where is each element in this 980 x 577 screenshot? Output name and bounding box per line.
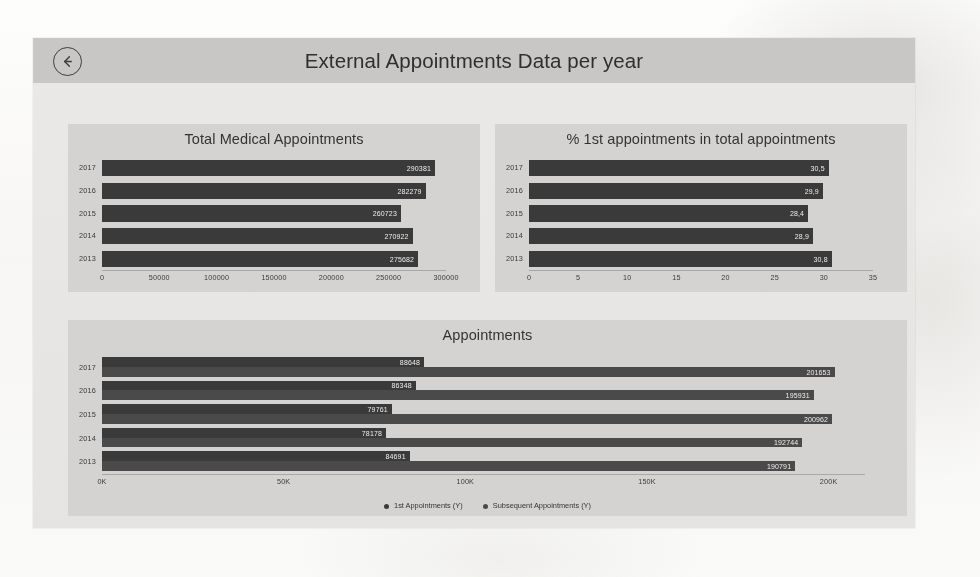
axis-label-year: 2014	[68, 231, 96, 240]
bar[interactable]: 260723	[102, 205, 401, 221]
bar-value-label: 30,5	[811, 165, 825, 172]
bar[interactable]: 30,5	[529, 160, 829, 176]
chart-panel-pct-first-appointments: % 1st appointments in total appointments…	[495, 124, 907, 292]
chart-panel-total-medical-appointments: Total Medical Appointments 2017290381201…	[68, 124, 480, 292]
bar-value-label: 78178	[362, 429, 382, 436]
plot-area-appointments: 2017886482016532016863481959312015797612…	[68, 320, 907, 516]
bar-value-label: 290381	[407, 165, 431, 172]
axis-tick-label: 150000	[248, 273, 300, 282]
bar[interactable]: 86348	[102, 381, 416, 391]
axis-label-year: 2014	[495, 231, 523, 240]
axis-tick-label: 25	[749, 273, 801, 282]
axis-tick-label: 0	[76, 273, 128, 282]
bar[interactable]: 290381	[102, 160, 435, 176]
bar[interactable]: 275682	[102, 251, 418, 267]
plot-area-total-medical-appointments: 2017290381201628227920152607232014270922…	[68, 124, 480, 292]
axis-label-year: 2015	[68, 410, 96, 419]
bar-value-label: 190791	[767, 463, 791, 470]
bar[interactable]: 84691	[102, 451, 410, 461]
axis-tick-label: 10	[601, 273, 653, 282]
legend-item-first-appointments[interactable]: 1st Appointments (Y)	[384, 501, 465, 510]
bar[interactable]: 28,4	[529, 205, 808, 221]
bar[interactable]: 79761	[102, 404, 392, 414]
chart-panel-appointments: Appointments 201788648201653201686348195…	[68, 320, 907, 516]
bar-value-label: 29,9	[805, 187, 819, 194]
bar[interactable]: 201653	[102, 367, 835, 377]
axis-tick-label: 200K	[803, 477, 855, 486]
bar[interactable]: 200962	[102, 414, 832, 424]
axis-label-year: 2016	[495, 186, 523, 195]
axis-label-year: 2013	[68, 457, 96, 466]
axis-tick-label: 35	[847, 273, 899, 282]
legend-label-subsequent-appointments: Subsequent Appointments (Y)	[493, 501, 591, 510]
axis-tick-label: 250000	[363, 273, 415, 282]
bar-value-label: 86348	[392, 382, 412, 389]
bar-value-label: 201653	[806, 368, 830, 375]
bar[interactable]: 29,9	[529, 183, 823, 199]
bar-value-label: 200962	[804, 415, 828, 422]
legend-swatch-subsequent-appointments	[483, 504, 488, 509]
axis-tick-label: 200000	[305, 273, 357, 282]
background-ghost-caption	[330, 546, 660, 564]
bar[interactable]: 190791	[102, 461, 795, 471]
axis-tick-label: 150K	[621, 477, 673, 486]
axis-tick-label: 0K	[76, 477, 128, 486]
axis-tick-label: 0	[503, 273, 555, 282]
bar[interactable]: 78178	[102, 428, 386, 438]
bar[interactable]: 192744	[102, 438, 802, 448]
axis-tick-label: 20	[700, 273, 752, 282]
plot-area-pct-first-appointments: 201730,5201629,9201528,4201428,9201330,8…	[495, 124, 907, 292]
axis-tick-label: 50K	[258, 477, 310, 486]
bar-value-label: 28,4	[790, 210, 804, 217]
bar-value-label: 195931	[786, 392, 810, 399]
bar-value-label: 192744	[774, 439, 798, 446]
chart-legend: 1st Appointments (Y) Subsequent Appointm…	[68, 501, 907, 510]
axis-tick-label: 100000	[191, 273, 243, 282]
bar-value-label: 275682	[390, 255, 414, 262]
axis-tick-label: 100K	[439, 477, 491, 486]
legend-swatch-first-appointments	[384, 504, 389, 509]
axis-tick-label: 50000	[133, 273, 185, 282]
axis-tick-label: 5	[552, 273, 604, 282]
axis-label-year: 2016	[68, 186, 96, 195]
legend-item-subsequent-appointments[interactable]: Subsequent Appointments (Y)	[483, 501, 591, 510]
bar[interactable]: 195931	[102, 390, 814, 400]
axis-label-year: 2016	[68, 386, 96, 395]
axis-label-year: 2017	[68, 363, 96, 372]
legend-label-first-appointments: 1st Appointments (Y)	[394, 501, 463, 510]
bar-value-label: 30,8	[813, 255, 827, 262]
bar[interactable]: 88648	[102, 357, 424, 367]
axis-label-year: 2017	[68, 163, 96, 172]
bar-value-label: 84691	[385, 453, 405, 460]
back-arrow-circle-icon[interactable]	[53, 47, 82, 76]
bar[interactable]: 270922	[102, 228, 413, 244]
axis-label-year: 2015	[68, 209, 96, 218]
bar[interactable]: 30,8	[529, 251, 832, 267]
axis-tick-label: 30	[798, 273, 850, 282]
report-sheet: External Appointments Data per year Tota…	[33, 38, 915, 528]
x-axis-line	[102, 270, 446, 271]
axis-label-year: 2013	[495, 254, 523, 263]
bar-value-label: 79761	[368, 406, 388, 413]
axis-tick-label: 15	[650, 273, 702, 282]
bar-value-label: 260723	[373, 210, 397, 217]
x-axis-line	[529, 270, 873, 271]
axis-label-year: 2015	[495, 209, 523, 218]
axis-label-year: 2017	[495, 163, 523, 172]
bar-value-label: 88648	[400, 358, 420, 365]
axis-label-year: 2014	[68, 434, 96, 443]
x-axis-line	[102, 474, 865, 475]
axis-tick-label: 300000	[420, 273, 472, 282]
bar[interactable]: 282279	[102, 183, 426, 199]
bar-value-label: 270922	[384, 233, 408, 240]
app-header: External Appointments Data per year	[33, 38, 915, 83]
bar-value-label: 28,9	[795, 233, 809, 240]
bar-value-label: 282279	[397, 187, 421, 194]
axis-label-year: 2013	[68, 254, 96, 263]
page-title: External Appointments Data per year	[33, 49, 915, 73]
bar[interactable]: 28,9	[529, 228, 813, 244]
